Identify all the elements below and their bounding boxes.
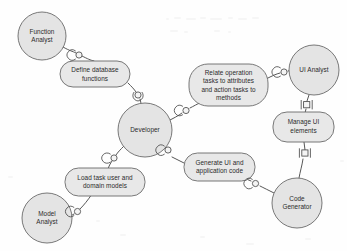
role-node-function-analyst[interactable]: Function Analyst bbox=[18, 12, 66, 60]
task-label-define-database-functions-line-2: functions bbox=[82, 75, 108, 82]
task-label-define-database-functions-line-1: Define database bbox=[71, 66, 119, 73]
task-label-load-task-user-and-domain-models-line-1: Load task user and bbox=[77, 174, 133, 181]
edge-manage-ui-elements--code-generator bbox=[304, 142, 305, 150]
assembly-connector-icon-ui-analyst-manage-ui-elements[interactable] bbox=[301, 100, 312, 109]
assembly-connector-icon-relate-operation-tasks-ui-analyst[interactable] bbox=[272, 67, 287, 77]
edge-joint-to-define-database-functions bbox=[82, 56, 94, 61]
task-label-relate-operation-tasks-line-4: methods bbox=[216, 94, 241, 101]
role-node-model-analyst[interactable]: Model Analyst bbox=[22, 193, 72, 243]
task-label-relate-operation-tasks-line-3: and action tasks to bbox=[201, 86, 256, 93]
edge-generate-ui-and-application-code--developer bbox=[172, 157, 184, 163]
role-label-model-analyst-line-2: Analyst bbox=[36, 218, 57, 226]
task-label-manage-ui-elements-line-2: elements bbox=[290, 127, 316, 134]
task-label-manage-ui-elements-line-1: Manage UI bbox=[288, 118, 320, 126]
role-label-code-generator-line-2: Generator bbox=[282, 203, 312, 210]
diagram-canvas: Define database functions Relate operati… bbox=[0, 0, 347, 251]
task-node-relate-operation-tasks[interactable]: Relate operation tasks to attributes and… bbox=[189, 64, 268, 106]
task-node-define-database-functions[interactable]: Define database functions bbox=[60, 61, 130, 87]
role-node-code-generator[interactable]: Code Generator bbox=[272, 178, 322, 228]
edge-developer--load-task-user-and-domain-models bbox=[116, 146, 124, 155]
task-node-generate-ui-and-application-code[interactable]: Generate UI and application code bbox=[184, 153, 255, 181]
assembly-connector-icon-developer-relate-operation-tasks[interactable] bbox=[174, 105, 189, 115]
task-label-relate-operation-tasks-line-1: Relate operation bbox=[205, 69, 253, 77]
assembly-connector-icon-developer-load-task-user-and-domain-models[interactable] bbox=[102, 153, 117, 163]
role-label-function-analyst-line-2: Analyst bbox=[31, 36, 52, 44]
role-label-ui-analyst: UI Analyst bbox=[299, 66, 328, 74]
task-label-generate-ui-and-application-code-line-1: Generate UI and bbox=[196, 159, 244, 166]
edge-joint-to-code-generator bbox=[299, 159, 303, 178]
role-label-model-analyst-line-1: Model bbox=[38, 210, 56, 217]
role-label-developer: Developer bbox=[130, 126, 160, 134]
role-label-function-analyst-line-1: Function bbox=[30, 28, 55, 35]
edge-code-generator--generate-ui-and-application-code bbox=[260, 186, 274, 193]
edge-ui-analyst--manage-ui-elements bbox=[307, 95, 309, 101]
assembly-connector-icon-define-database-functions-developer[interactable] bbox=[133, 92, 143, 101]
task-label-generate-ui-and-application-code-line-2: application code bbox=[196, 167, 243, 175]
edge-relate-operation-tasks--ui-analyst bbox=[266, 73, 280, 79]
task-node-load-task-user-and-domain-models[interactable]: Load task user and domain models bbox=[65, 168, 145, 196]
edge-define-database-functions--developer bbox=[128, 83, 136, 92]
role-label-code-generator-line-1: Code bbox=[289, 195, 305, 202]
task-label-load-task-user-and-domain-models-line-2: domain models bbox=[83, 182, 127, 189]
assembly-connector-icon-manage-ui-elements-code-generator[interactable] bbox=[299, 149, 310, 158]
role-node-ui-analyst[interactable]: UI Analyst bbox=[289, 45, 339, 95]
task-node-manage-ui-elements[interactable]: Manage UI elements bbox=[273, 112, 334, 142]
task-label-relate-operation-tasks-line-2: tasks to attributes bbox=[203, 77, 254, 84]
role-node-developer[interactable]: Developer bbox=[118, 103, 172, 157]
assembly-connector-icon-function-analyst-define-database-functions[interactable] bbox=[67, 50, 82, 60]
